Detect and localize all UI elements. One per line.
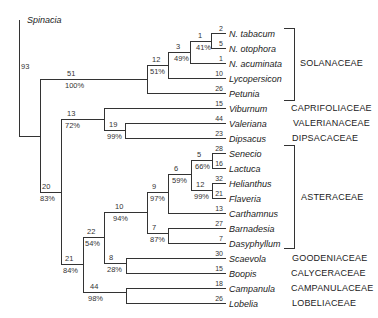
branch-length-label: 21 [207,190,223,197]
branch-length-label: 15 [207,265,223,272]
branch-length-label: 27 [207,220,223,227]
taxon-label: Petunia [229,89,260,99]
family-bracket-tick [284,100,295,101]
family-label: CALYCERACEAE [291,268,366,278]
branch-horizontal [212,168,226,169]
branch-length-label: 26 [207,85,223,92]
branch-horizontal [126,258,226,259]
branch-horizontal [147,93,226,94]
bootstrap-label: 94% [113,215,128,223]
node-number-label: 21 [65,255,73,263]
branch-horizontal [125,138,226,139]
branch-horizontal [104,263,127,264]
taxon-label: Boopis [229,269,257,279]
branch-horizontal [212,198,226,199]
node-number-label: 13 [67,110,75,118]
branch-vertical [191,160,192,191]
branch-horizontal [147,192,169,193]
taxon-label: Lycopersicon [229,74,282,84]
branch-vertical [190,41,191,64]
branch-horizontal [83,292,127,293]
branch-vertical [126,258,127,274]
branch-vertical [83,237,84,293]
taxon-label: Campanula [229,284,275,294]
branch-horizontal [40,192,62,193]
family-label: VALERIANACEAE [293,118,370,128]
family-label: LOBELIACEAE [292,298,356,308]
branch-horizontal [125,123,226,124]
branch-horizontal [212,153,226,154]
branch-horizontal [190,63,226,64]
branch-horizontal [126,288,226,289]
branch-horizontal [168,213,226,214]
bootstrap-label: 97% [150,195,165,203]
outgroup-label: Spinacia [27,15,62,25]
branch-length-label: 7 [207,235,223,242]
taxon-label: Carthamnus [229,209,278,219]
node-number-label: 51 [67,70,75,78]
bootstrap-label: 59% [172,177,187,185]
branch-length-label: 30 [207,250,223,257]
taxon-label: Valeriana [229,119,267,129]
branch-horizontal [104,130,126,131]
branch-vertical [104,108,105,131]
node-number-label: 20 [42,183,50,191]
node-number-label: 1 [198,32,202,40]
node-number-label: 12 [152,56,160,64]
branch-horizontal [211,33,226,34]
taxon-label: Flaveria [229,194,261,204]
branch-horizontal [211,48,226,49]
taxon-label: Barnadesia [229,224,275,234]
branch-length-label: 26 [207,295,223,302]
bootstrap-label: 66% [195,163,210,171]
branch-horizontal [61,264,84,265]
family-bracket-tick [284,145,295,146]
bootstrap-label: 41% [196,44,211,52]
family-label: DIPSACACEAE [292,133,358,143]
branch-vertical [168,228,169,244]
root-support-label: 93 [21,63,29,71]
bootstrap-label: 51% [150,68,165,76]
branch-length-label: 2 [207,25,223,32]
family-label: ASTERACEAE [301,192,364,202]
branch-vertical [168,174,169,214]
branch-vertical [125,123,126,139]
taxon-label: Dipsacus [229,134,266,144]
branch-vertical [168,52,169,79]
bootstrap-label: 49% [174,55,189,63]
family-label: CAPRIFOLIACEAE [291,103,372,113]
bootstrap-label: 98% [88,295,103,303]
branch-horizontal [168,52,191,53]
bootstrap-label: 84% [63,267,78,275]
taxon-label: Dasyphyllum [229,239,281,249]
family-bracket-tick [284,28,295,29]
family-label: SOLANACEAE [300,58,363,68]
branch-horizontal [104,108,226,109]
bootstrap-label: 99% [107,133,122,141]
node-number-label: 5 [197,151,201,159]
branch-vertical [104,212,105,264]
branch-horizontal [147,65,169,66]
branch-horizontal [168,174,192,175]
taxon-label: N. otophora [229,44,276,54]
taxon-label: Scaevola [229,254,266,264]
bootstrap-label: 54% [85,240,100,248]
branch-vertical [126,288,127,304]
branch-length-label: 18 [207,280,223,287]
node-number-label: 3 [176,43,180,51]
node-number-label: 7 [152,224,156,232]
taxon-label: Helianthus [229,179,272,189]
branch-horizontal [19,136,41,137]
taxon-label: Lactuca [229,164,261,174]
branch-horizontal [168,243,226,244]
bootstrap-label: 100% [65,82,84,90]
taxon-label: N. acuminata [229,59,282,69]
branch-vertical [40,79,41,193]
taxon-label: N. tabacum [229,29,275,39]
branch-horizontal [40,79,148,80]
branch-horizontal [126,303,226,304]
branch-horizontal [61,119,105,120]
taxon-label: Senecio [229,149,262,159]
taxon-label: Viburnum [229,104,267,114]
family-bracket [294,28,295,100]
